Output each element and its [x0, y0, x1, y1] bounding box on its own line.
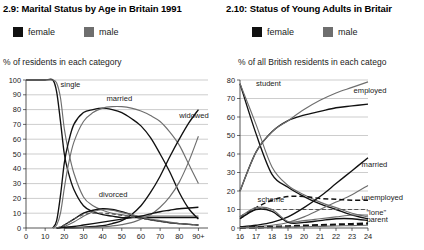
y-tick-label: 60 — [13, 135, 21, 144]
y-tick-label: 20 — [227, 187, 235, 196]
curve-annotation: divorced — [99, 190, 128, 199]
x-tick-label: 40 — [99, 232, 107, 241]
x-tick-label: 30 — [79, 232, 87, 241]
y-tick-label: 80 — [13, 105, 21, 114]
y-tick-label: 0 — [231, 224, 235, 233]
chart-panel-young-adults: 2.10: Status of Young Adults in Britair … — [212, 0, 424, 250]
y-axis-caption-right: % of all British residents in each categ… — [238, 57, 386, 67]
x-tick-label: 0 — [24, 232, 28, 241]
y-tick-label: 20 — [13, 194, 21, 203]
series-line — [53, 108, 199, 228]
legend-swatch-female — [13, 27, 23, 37]
x-tick-label: 70 — [156, 232, 164, 241]
x-tick-label: 10 — [41, 232, 49, 241]
y-tick-label: 10 — [227, 205, 235, 214]
curve-annotation: unemployed — [362, 193, 403, 202]
y-tick-label: 70 — [13, 120, 21, 129]
legend-item-male-right: male — [323, 27, 358, 37]
legend-item-female-left: female — [13, 27, 55, 37]
x-tick-label: 20 — [300, 232, 308, 241]
y-tick-label: 30 — [13, 179, 21, 188]
y-tick-label: 80 — [227, 76, 235, 85]
x-tick-label: 19 — [284, 232, 292, 241]
legend-swatch-female — [252, 27, 262, 37]
x-tick-label: 21 — [316, 232, 324, 241]
curve-annotation: single — [60, 80, 80, 89]
y-tick-label: 60 — [227, 113, 235, 122]
legend-swatch-male — [323, 27, 333, 37]
chart-title-right: 2.10: Status of Young Adults in Britair — [226, 3, 392, 14]
series-line — [240, 82, 368, 191]
x-tick-label: 22 — [332, 232, 340, 241]
legend-swatch-male — [84, 27, 94, 37]
y-tick-label: 0 — [17, 224, 21, 233]
legend-item-male-left: male — [84, 27, 119, 37]
chart-svg-marital-status: 0102030405060708090100010203040506070809… — [0, 74, 212, 250]
y-tick-label: 50 — [227, 131, 235, 140]
series-line — [240, 209, 368, 223]
y-tick-label: 50 — [13, 150, 21, 159]
chart-svg-young-adults: 01020304050607080161718192021222324stude… — [212, 74, 424, 250]
y-tick-label: 70 — [227, 94, 235, 103]
chart-legend-left: female male — [13, 27, 144, 37]
curve-annotation: married — [106, 94, 132, 103]
x-tick-label: 23 — [348, 232, 356, 241]
curve-annotation: scheme — [258, 195, 285, 204]
x-tick-label: 18 — [268, 232, 276, 241]
x-tick-label: 50 — [118, 232, 126, 241]
curve-annotation: widowed — [178, 111, 209, 120]
y-axis-caption-left: % of residents in each category — [3, 57, 122, 67]
x-tick-label: 80 — [175, 232, 183, 241]
legend-label-female: female — [28, 27, 55, 37]
legend-label-male: male — [338, 27, 358, 37]
curve-annotation: employed — [354, 86, 387, 95]
curve-annotation: married — [362, 160, 388, 169]
curve-annotation: student — [256, 79, 282, 88]
plot-area-left: 0102030405060708090100010203040506070809… — [0, 74, 212, 250]
x-tick-label: 17 — [252, 232, 260, 241]
y-tick-label: 10 — [13, 209, 21, 218]
y-tick-label: 30 — [227, 168, 235, 177]
legend-label-female: female — [267, 27, 294, 37]
chart-legend-right: female male — [252, 27, 383, 37]
y-tick-label: 40 — [227, 150, 235, 159]
x-tick-label: 24 — [364, 232, 372, 241]
plot-area-right: 01020304050607080161718192021222324stude… — [212, 74, 424, 250]
x-tick-label: 16 — [236, 232, 244, 241]
x-tick-label: 90+ — [192, 232, 205, 241]
x-tick-label: 60 — [137, 232, 145, 241]
y-tick-label: 40 — [13, 164, 21, 173]
chart-title-left: 2.9: Marital Status by Age in Britain 19… — [3, 3, 182, 14]
figure-pair: 2.9: Marital Status by Age in Britain 19… — [0, 0, 424, 250]
legend-item-female-right: female — [252, 27, 294, 37]
y-tick-label: 90 — [13, 90, 21, 99]
curve-annotation: parent — [366, 215, 388, 224]
legend-label-male: male — [99, 27, 119, 37]
y-tick-label: 100 — [9, 76, 21, 85]
x-tick-label: 20 — [60, 232, 68, 241]
chart-panel-marital-status: 2.9: Marital Status by Age in Britain 19… — [0, 0, 212, 250]
